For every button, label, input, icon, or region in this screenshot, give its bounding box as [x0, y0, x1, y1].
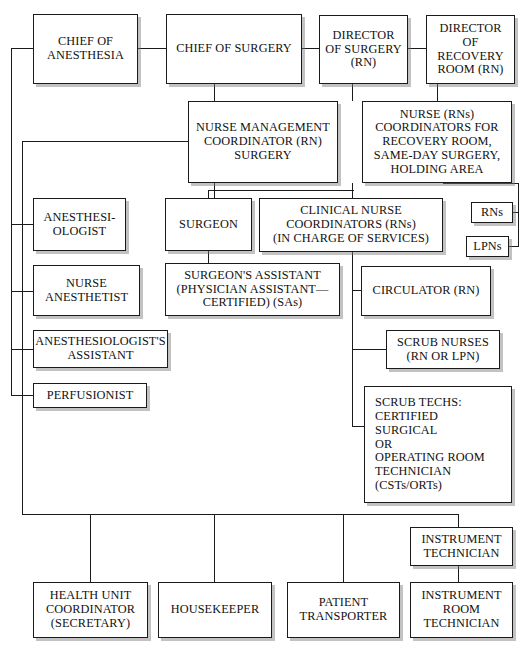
node-scrub-nurses[interactable]: SCRUB NURSES (RN OR LPN)	[386, 330, 500, 369]
connector-chief-surgery-to-director-surgery	[302, 48, 319, 49]
node-director-of-surgery[interactable]: DIRECTOR OF SURGERY (RN)	[319, 15, 408, 84]
connector-to-lpns	[508, 246, 519, 247]
connector-bus-to-patient-transporter	[343, 514, 344, 582]
connector-to-scrub-nurses	[352, 349, 386, 350]
node-perfusionist[interactable]: PERFUSIONIST	[33, 383, 147, 408]
node-label: CLINICAL NURSE COORDINATORS (RNs) (IN CH…	[273, 204, 429, 245]
connector-instrument-tech-to-instrument-room-tech	[458, 566, 459, 582]
connector-clinical-coordinators-spine	[352, 252, 353, 427]
connector-bus-to-health-unit-coordinator	[90, 514, 91, 582]
node-housekeeper[interactable]: HOUSEKEEPER	[158, 582, 272, 638]
node-label: ANESTHESIOLOGIST'S ASSISTANT	[35, 335, 165, 363]
node-clinical-nurse-coordinators[interactable]: CLINICAL NURSE COORDINATORS (RNs) (IN CH…	[259, 198, 443, 252]
node-anesthesiologists-assistant[interactable]: ANESTHESIOLOGIST'S ASSISTANT	[33, 330, 168, 368]
node-circulator[interactable]: CIRCULATOR (RN)	[361, 266, 491, 316]
node-label: RNs	[481, 206, 503, 220]
node-label: DIRECTOR OF SURGERY (RN)	[325, 29, 402, 70]
connector-bus-to-housekeeper	[214, 514, 215, 582]
node-label: LPNs	[473, 240, 501, 254]
node-label: SCRUB NURSES (RN OR LPN)	[397, 336, 489, 364]
connector-to-scrub-techs	[352, 426, 364, 427]
org-chart-canvas: CHIEF OF ANESTHESIA CHIEF OF SURGERY DIR…	[0, 0, 527, 653]
node-scrub-techs[interactable]: SCRUB TECHS: CERTIFIED SURGICAL OR OPERA…	[364, 386, 512, 503]
node-nurse-anesthetist[interactable]: NURSE ANESTHETIST	[33, 265, 140, 316]
node-surgeon[interactable]: SURGEON	[165, 198, 252, 251]
node-patient-transporter[interactable]: PATIENT TRANSPORTER	[287, 582, 400, 638]
node-label: HOUSEKEEPER	[171, 603, 260, 617]
connector-nurse-mgmt-spine	[22, 141, 23, 515]
connector-to-rns	[512, 212, 519, 213]
connector-bottom-bus	[22, 514, 459, 515]
connector-surgeon-to-surgeons-assistant	[208, 251, 209, 263]
node-label: NURSE MANAGEMENT COORDINATOR (RN) SURGER…	[196, 121, 330, 162]
node-label: DIRECTOR OF RECOVERY ROOM (RN)	[437, 22, 503, 77]
node-instrument-technician[interactable]: INSTRUMENT TECHNICIAN	[410, 527, 513, 566]
connector-anesthesia-spine	[11, 48, 12, 396]
node-nurse-coordinators-recovery[interactable]: NURSE (RNs) COORDINATORS FOR RECOVERY RO…	[362, 101, 512, 183]
node-instrument-room-technician[interactable]: INSTRUMENT ROOM TECHNICIAN	[410, 582, 513, 638]
node-health-unit-coordinator[interactable]: HEALTH UNIT COORDINATOR (SECRETARY)	[33, 582, 148, 638]
node-label: HEALTH UNIT COORDINATOR (SECRETARY)	[46, 589, 135, 630]
node-label: NURSE (RNs) COORDINATORS FOR RECOVERY RO…	[374, 108, 500, 177]
node-chief-of-anesthesia[interactable]: CHIEF OF ANESTHESIA	[33, 14, 138, 84]
connector-director-surgery-to-director-recovery	[408, 48, 426, 49]
connector-chief-anesthesia-to-chief-surgery	[138, 48, 166, 49]
connector-director-surgery-down	[352, 84, 353, 101]
node-label: SURGEON'S ASSISTANT (PHYSICIAN ASSISTANT…	[177, 269, 329, 310]
connector-chief-surgery-down	[214, 84, 215, 101]
connector-chief-anesthesia-left-stub	[11, 48, 34, 49]
node-rns[interactable]: RNs	[471, 202, 513, 223]
connector-to-anesthesiologists-assistant	[11, 349, 33, 350]
node-label: INSTRUMENT ROOM TECHNICIAN	[421, 589, 501, 630]
connector-bus-to-instrument-technician	[458, 514, 459, 528]
connector-director-recovery-down	[437, 84, 438, 101]
connector-to-perfusionist	[11, 395, 34, 396]
node-anesthesiologist[interactable]: ANESTHESI- OLOGIST	[33, 198, 126, 251]
connector-to-anesthesiologist	[11, 224, 33, 225]
node-director-of-recovery-room[interactable]: DIRECTOR OF RECOVERY ROOM (RN)	[426, 15, 515, 84]
node-label: CIRCULATOR (RN)	[373, 284, 480, 298]
connector-right-rn-lpn-spine	[518, 183, 519, 247]
node-label: ANESTHESI- OLOGIST	[43, 211, 115, 239]
node-lpns[interactable]: LPNs	[466, 236, 509, 257]
node-nurse-management-coordinator[interactable]: NURSE MANAGEMENT COORDINATOR (RN) SURGER…	[188, 101, 338, 183]
connector-nurse-mgmt-left-run	[22, 141, 188, 142]
connector-nurse-mgmt-bus	[208, 190, 354, 191]
connector-to-circulator	[352, 290, 361, 291]
node-chief-of-surgery[interactable]: CHIEF OF SURGERY	[166, 14, 302, 84]
connector-bus-to-clinical-nurse-coordinators	[352, 183, 353, 198]
node-label: PATIENT TRANSPORTER	[300, 596, 388, 624]
node-label: PERFUSIONIST	[47, 389, 134, 403]
node-label: INSTRUMENT TECHNICIAN	[421, 533, 501, 561]
node-label: CHIEF OF SURGERY	[176, 42, 292, 56]
node-label: NURSE ANESTHETIST	[45, 277, 128, 305]
node-label: SURGEON	[179, 218, 238, 232]
connector-to-nurse-anesthetist	[11, 291, 33, 292]
node-label: CHIEF OF ANESTHESIA	[47, 35, 124, 63]
connector-bus-to-surgeon	[208, 190, 209, 198]
node-label: SCRUB TECHS: CERTIFIED SURGICAL OR OPERA…	[367, 396, 485, 492]
node-surgeons-assistant[interactable]: SURGEON'S ASSISTANT (PHYSICIAN ASSISTANT…	[165, 263, 340, 316]
connector-coordinators-to-right-spine	[443, 183, 519, 184]
